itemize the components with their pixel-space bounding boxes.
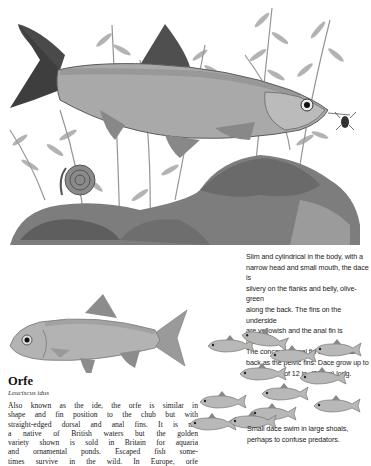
body-line: Also known as the ide, the orfe is simil…	[8, 401, 198, 410]
orfe-latin-name: Leuciscus idus	[8, 389, 49, 397]
insect-illustration	[328, 112, 356, 130]
body-line: straight-edged dorsal and anal fins. It …	[8, 420, 198, 429]
caption-line: narrow head and small mouth, the dace is	[246, 263, 370, 284]
caption-line: silvery on the flanks and belly, olive-g…	[246, 284, 370, 305]
caption-line: perhaps to confuse predators.	[247, 435, 371, 446]
orfe-fish-illustration	[5, 288, 190, 373]
caption-line: Small dace swim in large shoals,	[247, 424, 371, 435]
orfe-heading: Orfe	[8, 374, 33, 389]
rocks	[10, 155, 360, 245]
caption-line: Slim and cylindrical in the body, with a	[246, 252, 370, 263]
orfe-description: Also known as the ide, the orfe is simil…	[8, 401, 198, 466]
body-line: shape and fin position to the chub but w…	[8, 410, 198, 419]
body-line: and ornamental ponds. Escaped fish some-	[8, 447, 198, 456]
body-line: a native of British waters but the golde…	[8, 429, 198, 438]
dace-fish-illustration	[10, 24, 328, 158]
snail-illustration	[61, 165, 95, 195]
body-line: times survive in the wild. In Europe, or…	[8, 457, 198, 466]
dace-main-illustration	[0, 0, 371, 245]
shoal-caption: Small dace swim in large shoals, perhaps…	[247, 424, 371, 445]
caption-line: along the back. The fins on the undersid…	[246, 305, 370, 326]
body-line: variety shown is sold in Britain for aqu…	[8, 438, 198, 447]
